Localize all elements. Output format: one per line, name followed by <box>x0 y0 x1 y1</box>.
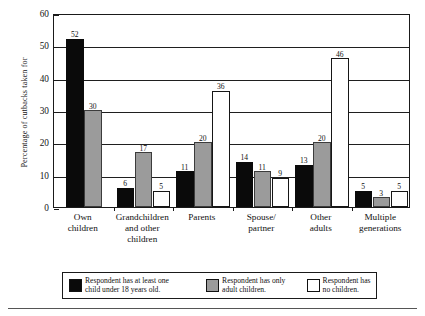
legend-label: Respondent has onlyadult children. <box>222 277 285 295</box>
legend-swatch-gray <box>206 279 219 292</box>
bar-value-label: 3 <box>379 189 383 198</box>
bar-value-label: 52 <box>71 30 79 39</box>
bar: 17 <box>135 152 153 207</box>
bar: 13 <box>295 165 313 207</box>
bar-value-label: 14 <box>240 153 248 162</box>
bar-value-label: 6 <box>123 179 127 188</box>
bar-value-label: 11 <box>181 163 188 172</box>
bar-value-label: 11 <box>259 163 266 172</box>
bar-value-label: 30 <box>89 102 97 111</box>
plot-area: 5230617511203614119132046535 <box>53 14 410 208</box>
bar: 11 <box>254 171 272 207</box>
bar: 5 <box>391 191 409 207</box>
x-axis-category-label: Multiplegenerations <box>343 212 419 234</box>
bar: 11 <box>176 171 194 207</box>
y-axis-tick <box>54 15 59 16</box>
bar: 30 <box>84 110 102 207</box>
y-axis-tick-label: 30 <box>19 106 49 116</box>
bar-value-label: 13 <box>300 156 308 165</box>
bar: 3 <box>373 197 391 207</box>
y-axis-tick <box>54 47 59 48</box>
legend-item[interactable]: Respondent hasno children. <box>307 277 376 295</box>
bar: 9 <box>272 178 290 207</box>
legend-label: Respondent has at least onechild under 1… <box>85 277 169 295</box>
y-axis-tick-label: 50 <box>19 41 49 51</box>
chart-figure: Percentage of cutbacks taken for 5230617… <box>0 0 425 316</box>
y-axis-tick-label: 20 <box>19 138 49 148</box>
category-label-line: Multiple <box>343 212 419 223</box>
legend-item[interactable]: Respondent has onlyadult children. <box>206 277 300 295</box>
y-axis-tick <box>54 80 59 81</box>
gridline <box>54 177 409 178</box>
legend-swatch-white <box>307 279 320 292</box>
bar: 14 <box>236 162 254 207</box>
bar-value-label: 5 <box>159 182 163 191</box>
bar: 20 <box>313 142 331 207</box>
bar-value-label: 20 <box>318 134 326 143</box>
bar-value-label: 36 <box>217 82 225 91</box>
x-axis-tick <box>114 207 115 211</box>
x-axis-tick <box>173 207 174 211</box>
y-axis-tick <box>54 144 59 145</box>
x-axis-tick <box>292 207 293 211</box>
legend-label-line: child under 18 years old. <box>85 286 169 295</box>
bar-value-label: 5 <box>361 182 365 191</box>
legend-swatch-black <box>69 279 82 292</box>
footer-divider <box>8 308 417 309</box>
bar: 6 <box>117 188 135 207</box>
bar: 5 <box>153 191 171 207</box>
gridline <box>54 47 409 48</box>
bar-value-label: 20 <box>199 134 207 143</box>
category-label-line: children <box>105 234 181 245</box>
bar: 46 <box>331 58 349 207</box>
bar-value-label: 9 <box>278 169 282 178</box>
y-axis-tick <box>54 112 59 113</box>
gridline <box>54 80 409 81</box>
legend-label-line: adult children. <box>222 286 285 295</box>
bar-value-label: 17 <box>139 144 147 153</box>
bar: 5 <box>355 191 373 207</box>
legend-label: Respondent hasno children. <box>323 277 371 295</box>
chart-legend: Respondent has at least onechild under 1… <box>62 272 377 299</box>
x-axis-tick <box>352 207 353 211</box>
category-label-line: generations <box>343 223 419 234</box>
category-label-line: and other <box>105 223 181 234</box>
y-axis-tick <box>54 177 59 178</box>
bar-value-label: 5 <box>397 182 401 191</box>
legend-item[interactable]: Respondent has at least onechild under 1… <box>69 277 200 295</box>
y-axis-tick-label: 60 <box>19 9 49 19</box>
x-axis-tick <box>233 207 234 211</box>
y-axis-tick-label: 40 <box>19 74 49 84</box>
legend-label-line: no children. <box>323 286 371 295</box>
y-axis-tick <box>54 209 59 210</box>
gridline <box>54 144 409 145</box>
bar: 20 <box>194 142 212 207</box>
bar: 52 <box>66 39 84 207</box>
bar: 36 <box>212 91 230 207</box>
bar-value-label: 46 <box>336 50 344 59</box>
gridline <box>54 112 409 113</box>
y-axis-tick-label: 10 <box>19 171 49 181</box>
